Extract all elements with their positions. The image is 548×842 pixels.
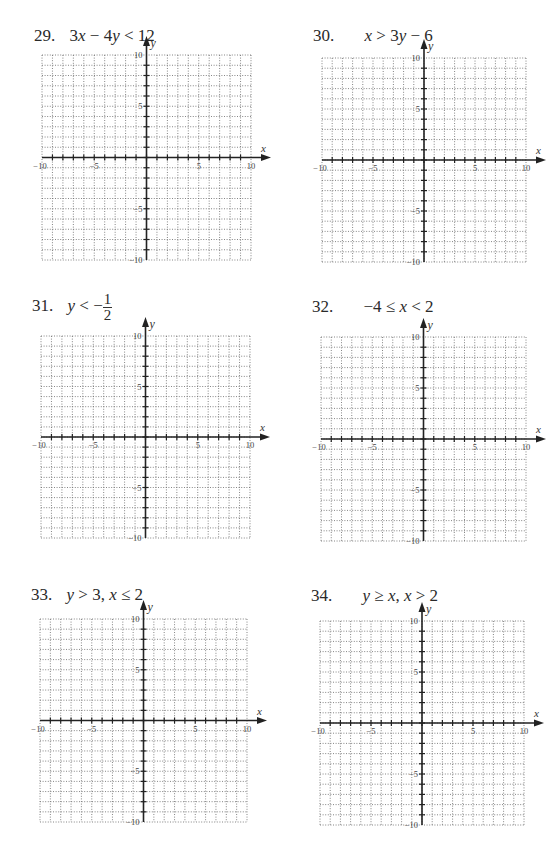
y-tick-label: −10 <box>405 820 418 830</box>
y-axis-label: y <box>425 602 432 616</box>
x-axis-arrow-icon <box>536 157 546 164</box>
problem-number: 34. <box>311 586 332 606</box>
y-tick-label: −10 <box>126 817 139 827</box>
problem-number: 30. <box>313 26 334 46</box>
y-tick-label: −10 <box>406 536 419 546</box>
inequality-expression: y > 3, x ≤ 2 <box>67 585 144 605</box>
x-tick-label: 5 <box>197 161 201 171</box>
x-tick-label: 5 <box>473 163 477 173</box>
inequality-expression: x > 3y − 6 <box>365 26 433 46</box>
y-tick-label: −5 <box>409 769 418 779</box>
fraction: 12 <box>103 292 113 323</box>
problem-number: 32. <box>312 297 333 317</box>
coordinate-grid-32[interactable]: −10−5510105−5−10xy <box>321 337 526 541</box>
x-axis-label: x <box>533 707 539 719</box>
y-tick-label: 10 <box>410 616 419 626</box>
y-tick-label: 5 <box>135 665 139 675</box>
y-tick-label: 5 <box>414 667 418 677</box>
x-tick-label: −5 <box>87 724 96 734</box>
coordinate-grid-29[interactable]: −10−5510105−5−10xy <box>42 55 251 260</box>
y-tick-label: −10 <box>129 255 142 265</box>
inequality-expression: y < −12 <box>68 292 113 323</box>
x-axis-arrow-icon <box>260 434 270 441</box>
x-tick-label: 10 <box>522 163 531 173</box>
y-tick-label: −5 <box>132 483 141 493</box>
x-tick-label: −5 <box>366 726 375 736</box>
problem-number: 29. <box>34 26 55 46</box>
x-tick-label: −5 <box>368 163 377 173</box>
x-axis-label: x <box>535 144 541 156</box>
y-axis-arrow-icon <box>142 317 149 327</box>
problem-label: 32. −4 ≤ x < 2 <box>312 297 434 317</box>
x-tick-label: 10 <box>246 440 255 450</box>
y-tick-label: 5 <box>415 383 419 393</box>
inequality-expression: −4 ≤ x < 2 <box>364 297 434 317</box>
coordinate-grid-33[interactable]: −10−5510105−5−10xy <box>40 619 247 822</box>
x-tick-label: −10 <box>313 163 326 173</box>
y-axis-label: y <box>427 39 434 53</box>
inequality-expression: 3x − 4y < 12 <box>70 26 155 46</box>
y-tick-label: −5 <box>130 766 139 776</box>
y-axis-label: y <box>149 317 156 331</box>
y-tick-label: 10 <box>411 332 420 342</box>
x-tick-label: 10 <box>243 724 252 734</box>
x-tick-label: 10 <box>247 161 256 171</box>
x-tick-label: −10 <box>31 724 44 734</box>
y-axis-label: y <box>147 600 154 614</box>
y-tick-label: 10 <box>134 50 143 60</box>
x-tick-label: 5 <box>196 440 200 450</box>
x-tick-label: −10 <box>32 440 45 450</box>
x-tick-label: 10 <box>522 442 531 452</box>
problem-label: 31. y < −12 <box>32 292 112 323</box>
x-tick-label: −10 <box>311 726 324 736</box>
y-tick-label: 10 <box>412 53 421 63</box>
y-tick-label: 10 <box>133 331 142 341</box>
coordinate-grid-30[interactable]: −10−5510105−5−10xy <box>322 58 526 262</box>
y-tick-label: −5 <box>410 485 419 495</box>
x-tick-label: −10 <box>312 442 325 452</box>
x-axis-arrow-icon <box>536 436 546 443</box>
y-tick-label: 10 <box>131 614 140 624</box>
y-tick-label: −5 <box>411 206 420 216</box>
x-tick-label: −5 <box>368 442 377 452</box>
y-tick-label: 5 <box>138 101 142 111</box>
y-tick-label: −10 <box>407 257 420 267</box>
x-tick-label: 5 <box>473 442 477 452</box>
problem-label: 34. y ≥ x, x > 2 <box>311 586 438 606</box>
x-tick-label: −5 <box>90 161 99 171</box>
problem-label: 33. y > 3, x ≤ 2 <box>31 585 143 605</box>
x-axis-label: x <box>260 142 266 154</box>
problem-label: 29. 3x − 4y < 12 <box>34 26 155 46</box>
y-axis-arrow-icon <box>420 318 427 328</box>
x-axis-label: x <box>259 421 265 433</box>
problem-number: 31. <box>32 296 53 316</box>
x-tick-label: −5 <box>89 440 98 450</box>
x-axis-label: x <box>256 705 262 717</box>
y-tick-label: −10 <box>128 533 141 543</box>
y-axis-label: y <box>427 318 434 332</box>
x-tick-label: −10 <box>33 161 46 171</box>
x-axis-label: x <box>535 423 541 435</box>
x-tick-label: 5 <box>471 726 475 736</box>
problem-number: 33. <box>31 585 52 605</box>
x-tick-label: 5 <box>193 724 197 734</box>
y-tick-label: 5 <box>137 382 141 392</box>
y-tick-label: 5 <box>416 104 420 114</box>
x-axis-arrow-icon <box>257 717 267 724</box>
coordinate-grid-31[interactable]: −10−5510105−5−10xy <box>41 336 250 538</box>
coordinate-grid-34[interactable]: −10−5510105−5−10xy <box>320 621 524 825</box>
x-tick-label: 10 <box>520 726 529 736</box>
y-axis-label: y <box>150 36 157 50</box>
y-tick-label: −5 <box>133 204 142 214</box>
x-axis-arrow-icon <box>261 154 271 161</box>
x-axis-arrow-icon <box>534 720 544 727</box>
problem-label: 30. x > 3y − 6 <box>313 26 433 46</box>
